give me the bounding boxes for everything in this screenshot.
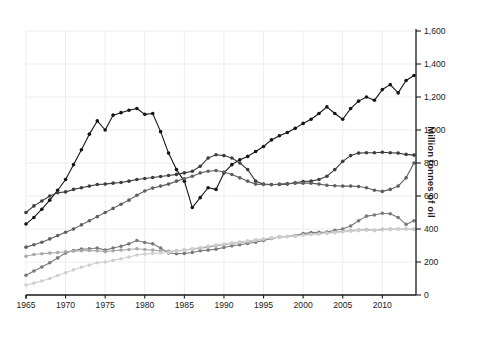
x-axis-tick-label: 1995 (254, 300, 273, 310)
data-point (349, 224, 353, 228)
y-axis-tick-label: 1,400 (424, 59, 446, 69)
data-point (183, 177, 187, 181)
data-point (214, 188, 218, 192)
data-point (48, 198, 52, 202)
data-point (317, 178, 321, 182)
data-point (88, 132, 92, 136)
data-point (72, 188, 76, 192)
data-point (24, 211, 28, 215)
data-point (222, 154, 226, 158)
chart-canvas: 1965197019751980198519901995200020052010… (0, 0, 479, 344)
data-point (56, 274, 60, 278)
data-point (95, 215, 99, 219)
data-point (190, 247, 194, 251)
data-point (183, 252, 187, 256)
data-point (365, 95, 369, 99)
data-point (262, 183, 266, 187)
data-point (190, 169, 194, 173)
data-point (24, 273, 28, 277)
y-axis-tick-label: 400 (424, 224, 439, 234)
data-point (317, 112, 321, 116)
data-point (388, 188, 392, 192)
data-point (135, 247, 139, 251)
data-point (381, 150, 385, 154)
data-point (365, 214, 369, 218)
data-point (40, 252, 44, 256)
x-axis-tick-label: 1975 (96, 300, 115, 310)
data-point (64, 250, 68, 254)
data-point (88, 219, 92, 223)
data-point (206, 244, 210, 248)
data-point (151, 252, 155, 256)
data-point (293, 127, 297, 131)
data-point (317, 232, 321, 236)
data-point (127, 108, 131, 112)
data-point (214, 153, 218, 157)
y-axis-tick-label: 200 (424, 257, 439, 267)
x-axis-tick-label: 2010 (373, 300, 392, 310)
data-point (119, 202, 123, 206)
data-point (230, 173, 234, 177)
data-point (349, 184, 353, 188)
data-point (246, 155, 250, 159)
data-point (230, 241, 234, 245)
data-point (135, 178, 139, 182)
data-point (111, 259, 115, 263)
data-point (88, 184, 92, 188)
data-point (95, 183, 99, 187)
data-point (373, 151, 377, 155)
data-point (198, 246, 202, 250)
data-point (333, 168, 337, 172)
data-point (151, 248, 155, 252)
data-point (246, 239, 250, 243)
data-point (381, 228, 385, 232)
data-point (40, 207, 44, 211)
data-point (127, 198, 131, 202)
data-point (56, 234, 60, 238)
data-point (48, 251, 52, 255)
x-axis-tick-label: 1965 (16, 300, 35, 310)
data-point (24, 245, 28, 249)
data-point (404, 228, 408, 232)
data-point (357, 229, 361, 233)
data-point (151, 176, 155, 180)
data-point (64, 231, 68, 235)
x-axis-tick-label: 1980 (135, 300, 154, 310)
data-point (143, 248, 147, 252)
data-point (222, 242, 226, 246)
data-point (24, 222, 28, 226)
data-point (388, 228, 392, 232)
data-point (206, 169, 210, 173)
data-point (381, 190, 385, 194)
data-point (80, 223, 84, 227)
data-point (317, 182, 321, 186)
data-point (396, 228, 400, 232)
data-point (286, 131, 290, 135)
data-point (412, 227, 416, 231)
data-point (214, 247, 218, 251)
data-point (404, 223, 408, 227)
data-point (95, 261, 99, 265)
data-point (80, 265, 84, 269)
data-point (183, 248, 187, 252)
y-axis-tick-label: 0 (424, 290, 429, 300)
data-point (373, 229, 377, 233)
data-point (119, 111, 123, 115)
data-point (127, 255, 131, 259)
data-point (325, 183, 329, 187)
data-point (175, 249, 179, 253)
data-point (103, 250, 107, 254)
data-point (365, 151, 369, 155)
data-point (80, 148, 84, 152)
data-point (175, 168, 179, 172)
data-point (270, 138, 274, 142)
data-point (103, 182, 107, 186)
data-point (32, 253, 36, 257)
data-point (183, 171, 187, 175)
data-point (222, 170, 226, 174)
data-point (388, 151, 392, 155)
data-point (254, 150, 258, 154)
data-point (175, 173, 179, 177)
x-axis-tick-label: 1990 (214, 300, 233, 310)
data-point (111, 207, 115, 211)
